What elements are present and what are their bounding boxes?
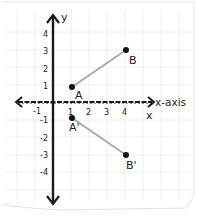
y-tick-label: 1 — [43, 82, 48, 91]
y-tick-label: -2 — [40, 134, 48, 143]
point-b — [123, 47, 129, 53]
point-label-b: B — [129, 54, 137, 67]
x-axis — [16, 97, 154, 107]
point-b-prime — [123, 152, 129, 158]
x-tick-label: 2 — [86, 108, 91, 117]
segment-ab — [72, 50, 126, 87]
y-tick-label: -3 — [40, 151, 48, 160]
x-tick-label: 4 — [122, 108, 127, 117]
y-tick-label: 2 — [43, 65, 48, 74]
y-axis-label: y — [61, 11, 68, 24]
x-tick-label: 3 — [104, 108, 109, 117]
point-label-a: A — [75, 89, 83, 102]
point-label-b-prime: B' — [126, 159, 137, 172]
y-tick-label: -4 — [40, 168, 48, 177]
y-tick-label: -1 — [40, 116, 48, 125]
x-axis-label-secondary: x — [146, 109, 153, 122]
y-tick-label: 3 — [43, 47, 48, 56]
graph-paper: y x-axis x -1 1 2 3 4 4 3 2 1 -1 -2 -3 -… — [0, 0, 199, 218]
x-axis-label: x-axis — [155, 96, 186, 108]
y-tick-label: 4 — [43, 30, 48, 39]
x-tick-label: -1 — [33, 107, 41, 116]
y-axis — [47, 15, 59, 204]
point-label-a-prime: A' — [69, 121, 80, 134]
